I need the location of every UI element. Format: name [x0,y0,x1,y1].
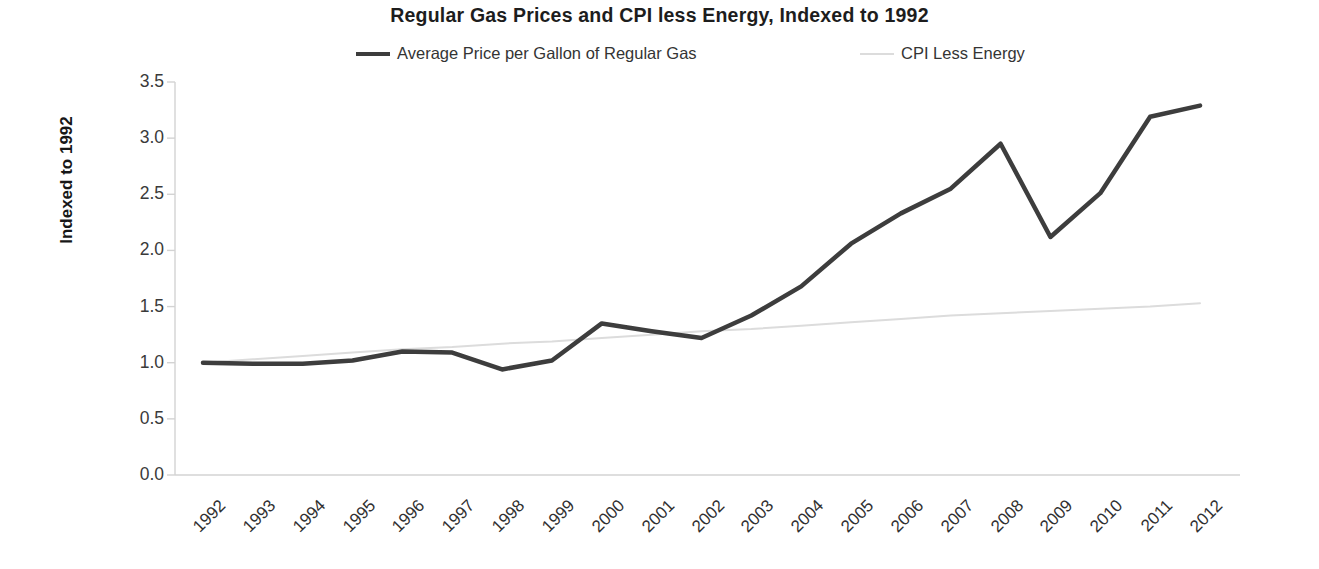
x-tick-label: 1993 [226,496,280,550]
x-tick-label: 2007 [924,496,978,550]
chart-figure: Regular Gas Prices and CPI less Energy, … [0,0,1319,569]
x-tick-label: 1999 [525,496,579,550]
x-tick-label: 2005 [824,496,878,550]
x-tick-label: 1997 [426,496,480,550]
x-tick-label: 1998 [475,496,529,550]
x-tick-label: 2012 [1173,496,1227,550]
x-tick-label: 2008 [974,496,1028,550]
x-tick-label: 2004 [775,496,829,550]
x-tick-label: 2002 [675,496,729,550]
x-tick-label: 2000 [575,496,629,550]
x-tick-label: 2009 [1024,496,1078,550]
x-tick-label: 1994 [276,496,330,550]
x-tick-label: 2003 [725,496,779,550]
x-tick-label: 1995 [326,496,380,550]
x-tick-label: 2006 [874,496,928,550]
x-axis-ticks: 1992199319941995199619971998199920002001… [0,0,1319,569]
x-tick-label: 2010 [1074,496,1128,550]
x-tick-label: 2001 [625,496,679,550]
x-tick-label: 2011 [1123,496,1177,550]
x-tick-label: 1992 [176,496,230,550]
x-tick-label: 1996 [376,496,430,550]
